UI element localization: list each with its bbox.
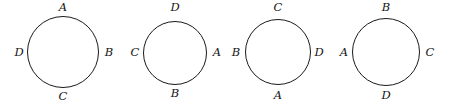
circle-3-outline <box>245 19 311 85</box>
circle-4-label-top: B <box>377 2 395 14</box>
circle-4-label-bottom: D <box>377 90 395 102</box>
circle-3-label-bottom: A <box>269 90 287 102</box>
circle-1-outline <box>27 16 99 88</box>
circle-3-label-left: B <box>227 47 245 59</box>
circle-4-label-left: A <box>335 47 353 59</box>
circle-2-label-bottom: B <box>166 88 184 100</box>
circle-1-label-bottom: C <box>54 91 72 103</box>
circle-4-outline <box>352 18 420 86</box>
circle-2-outline <box>143 21 207 85</box>
circle-1-label-top: A <box>54 2 72 14</box>
circle-2-label-right: A <box>208 47 226 59</box>
circle-2-label-top: D <box>166 2 184 14</box>
circle-4-label-right: C <box>421 47 439 59</box>
four-circles-figure: ABCDDABCCDABBCDA <box>0 0 456 109</box>
circle-1-label-right: B <box>100 47 118 59</box>
circle-2-label-left: C <box>126 47 144 59</box>
circle-1-label-left: D <box>10 47 28 59</box>
circle-group: ABCDDABCCDABBCDA <box>0 0 456 109</box>
circle-3-label-top: C <box>269 2 287 14</box>
circle-3-label-right: D <box>310 47 328 59</box>
